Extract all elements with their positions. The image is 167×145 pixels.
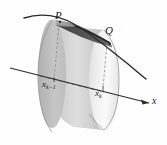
label-point-p: P — [55, 10, 62, 21]
axis-arrowhead — [141, 100, 149, 105]
label-x-k-subscript: k — [99, 93, 102, 99]
point-q-marker — [109, 43, 111, 45]
label-x-k: xk — [95, 89, 102, 100]
cylinder-band-diagram — [0, 0, 167, 145]
point-p-marker — [59, 21, 61, 23]
label-point-q: Q — [105, 25, 113, 36]
figure-container: P Q xk−1 xk x — [0, 0, 167, 145]
label-x-axis: x — [152, 96, 156, 106]
label-x-k-minus-1-subscript: k−1 — [46, 84, 56, 90]
label-x-k-minus-1: xk−1 — [42, 80, 56, 91]
